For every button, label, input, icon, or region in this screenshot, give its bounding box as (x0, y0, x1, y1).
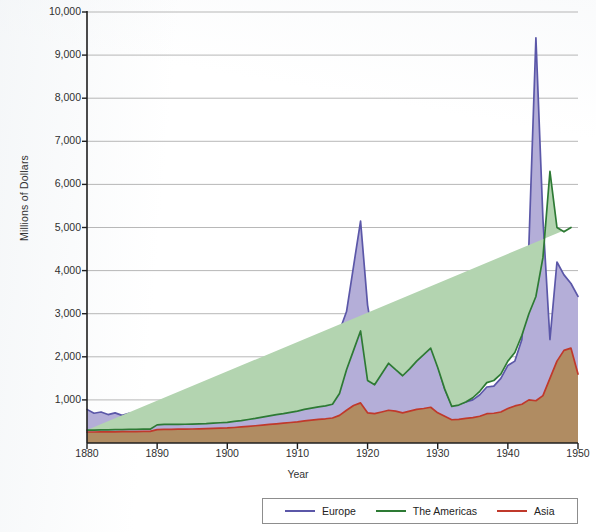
x-tick-label: 1890 (127, 447, 187, 459)
legend-label: Asia (534, 505, 554, 517)
legend-swatch (285, 510, 315, 512)
x-tick-label: 1910 (267, 447, 327, 459)
y-tick-label: 6,000 (25, 177, 81, 189)
legend-item-europe: Europe (285, 505, 356, 517)
legend-label: The Americas (413, 505, 477, 517)
y-tick-label: 10,000 (25, 5, 81, 17)
y-tick-label: 1,000 (25, 393, 81, 405)
y-tick-label: 5,000 (25, 221, 81, 233)
legend-label: Europe (322, 505, 356, 517)
x-tick-label: 1950 (548, 447, 596, 459)
x-tick-label: 1900 (197, 447, 257, 459)
y-tick-label: 9,000 (25, 48, 81, 60)
y-tick-label: 4,000 (25, 264, 81, 276)
y-tick-label: 8,000 (25, 91, 81, 103)
legend-swatch (376, 510, 406, 512)
x-tick-label: 1930 (408, 447, 468, 459)
x-axis-title: Year (0, 468, 596, 480)
legend-swatch (497, 510, 527, 512)
area-chart: Millions of Dollars Year 1,0002,0003,000… (0, 0, 596, 532)
legend-item-asia: Asia (497, 505, 554, 517)
x-tick-label: 1880 (57, 447, 117, 459)
legend-item-the-americas: The Americas (376, 505, 477, 517)
y-tick-label: 3,000 (25, 307, 81, 319)
y-axis-title: Millions of Dollars (18, 128, 30, 268)
chart-legend: EuropeThe AmericasAsia (262, 498, 578, 524)
y-tick-label: 2,000 (25, 350, 81, 362)
y-tick-label: 7,000 (25, 134, 81, 146)
x-tick-label: 1920 (338, 447, 398, 459)
x-tick-label: 1940 (478, 447, 538, 459)
